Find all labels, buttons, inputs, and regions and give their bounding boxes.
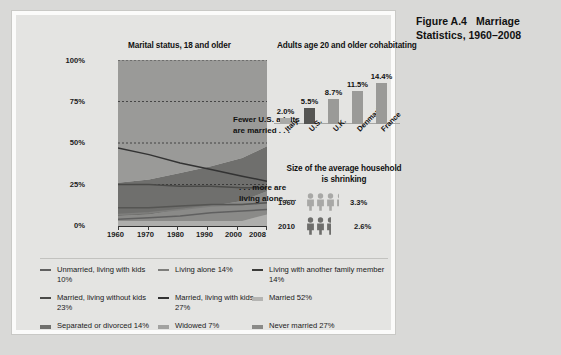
legend-label: Married 52% (252, 293, 388, 303)
legend-swatch (158, 269, 169, 271)
legend-item-separated-or-divorced-14[interactable]: Separated or divorced 14% (40, 321, 152, 331)
bar-column-italy: 2.0%Italy (280, 118, 291, 124)
figure-caption: Figure A.4Marriage Statistics, 1960–2008 (416, 14, 554, 42)
legend-divider (40, 258, 388, 259)
household-value-label: 3.3% (350, 198, 367, 207)
legend-label: Married, living without kids 23% (40, 293, 152, 312)
x-axis-label-1980: 1980 (167, 230, 184, 239)
callout-alone-line1: . . . more are (239, 183, 296, 194)
y-axis-label-100: 100% (66, 56, 85, 65)
bar-value-label: 14.4% (371, 72, 393, 81)
legend-swatch (252, 269, 263, 271)
legend-swatch (252, 325, 263, 329)
person-icon (336, 193, 339, 211)
person-icon (306, 193, 315, 211)
household-value-label: 2.6% (354, 222, 371, 231)
x-tick-2008 (266, 226, 267, 230)
y-axis-label-75: 75% (70, 97, 85, 106)
bar-value-label: 2.0% (277, 107, 294, 116)
bar-value-label: 5.5% (301, 97, 318, 106)
y-axis-label-25: 25% (70, 180, 85, 189)
legend-item-never-married-27[interactable]: Never married 27% (252, 321, 388, 331)
x-axis-label-2008: 2008 (249, 230, 266, 239)
legend-label: Living with another family member 14% (252, 265, 388, 284)
person-icon (306, 217, 315, 235)
bar-column-france: 14.4%France (376, 83, 387, 124)
legend-label: Separated or divorced 14% (40, 321, 152, 331)
figure-panel: Marital status, 18 and older Adults age … (12, 11, 395, 334)
cohabiting-bar-chart: 2.0%Italy5.5%U.S.8.7%U.K.11.5%Denmark14.… (274, 60, 406, 150)
legend-swatch (40, 325, 51, 329)
legend-swatch (40, 297, 51, 299)
legend-swatch (252, 297, 263, 301)
legend-item-living-with-another-family-member-14[interactable]: Living with another family member 14% (252, 265, 388, 284)
bar-column-uk: 8.7%U.K. (328, 99, 339, 124)
legend-label: Unmarried, living with kids 10% (40, 265, 152, 284)
legend-swatch (158, 297, 169, 299)
person-icon (316, 193, 325, 211)
legend-item-married-living-without-kids-23[interactable]: Married, living without kids 23% (40, 293, 152, 312)
bar-column-denmark: 11.5%Denmark (352, 91, 363, 124)
bar-rect (376, 83, 387, 124)
legend-swatch (40, 269, 51, 271)
person-icon (326, 217, 331, 235)
household-figure-group (306, 217, 332, 237)
legend-label: Never married 27% (252, 321, 388, 331)
person-icon (326, 193, 335, 211)
legend-item-unmarried-living-with-kids-10[interactable]: Unmarried, living with kids 10% (40, 265, 152, 284)
x-axis-label-1970: 1970 (137, 230, 154, 239)
bar-column-us: 5.5%U.S. (304, 108, 315, 124)
person-icon (316, 217, 325, 235)
household-row-2010: 20102.6% (278, 217, 406, 237)
household-figure-group (306, 193, 340, 213)
figure-number: Figure A.4 (416, 15, 467, 27)
household-row-1960: 19603.3% (278, 193, 406, 213)
x-axis-label-1960: 1960 (107, 230, 124, 239)
cohabiting-chart-title: Adults age 20 and older cohabitating (277, 41, 417, 50)
legend-swatch (158, 325, 169, 329)
marital-chart-title: Marital status, 18 and older (128, 41, 231, 50)
x-axis-label-1990: 1990 (196, 230, 213, 239)
household-year-label: 2010 (278, 222, 295, 231)
household-pictograph: 19603.3%20102.6% (278, 193, 406, 241)
legend-item-married-52[interactable]: Married 52% (252, 293, 388, 303)
y-axis-label-0: 0% (74, 221, 85, 230)
household-chart-title: Size of the average household is shrinki… (285, 163, 403, 185)
marital-status-area-chart: 100% 75% 50% 25% 0% 1960 1970 1980 1990 … (89, 60, 267, 232)
x-axis-line (118, 226, 267, 227)
x-axis-label-2000: 2000 (225, 230, 242, 239)
bar-value-label: 11.5% (347, 80, 368, 89)
bar-value-label: 8.7% (325, 88, 342, 97)
household-year-label: 1960 (278, 198, 295, 207)
y-axis-label-50: 50% (70, 138, 85, 147)
